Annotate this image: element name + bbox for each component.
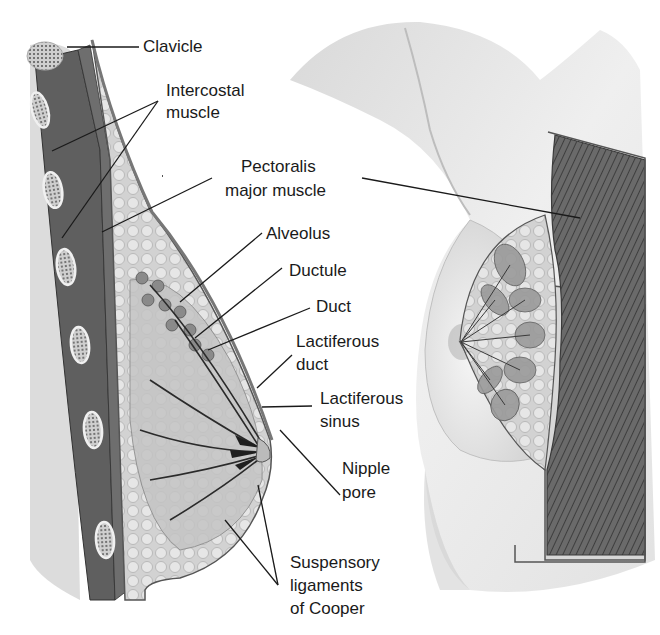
label-lactiferous-duct-line1: Lactiferous [296, 331, 379, 352]
label-nipple-pore-line2: pore [342, 482, 376, 503]
label-intercostal-line1: Intercostal [166, 80, 244, 101]
label-pectoralis-line1: Pectoralis [241, 156, 316, 177]
label-cooper-line3: of Cooper [290, 598, 365, 619]
label-nipple-pore-line1: Nipple [342, 458, 390, 479]
breast-anatomy-diagram: Clavicle Intercostal muscle Pectoralis m… [0, 0, 660, 635]
label-lactiferous-sinus-line1: Lactiferous [320, 388, 403, 409]
sagittal-section [27, 40, 272, 600]
label-cooper-line1: Suspensory [290, 552, 380, 573]
anatomy-illustration [0, 0, 660, 635]
label-clavicle: Clavicle [143, 36, 203, 57]
label-lactiferous-sinus-line2: sinus [320, 411, 360, 432]
label-duct: Duct [316, 296, 351, 317]
label-alveolus: Alveolus [266, 223, 330, 244]
label-ductule: Ductule [289, 260, 347, 281]
label-lactiferous-duct-line2: duct [296, 354, 328, 375]
label-intercostal-line2: muscle [166, 102, 220, 123]
label-cooper-line2: ligaments [290, 575, 363, 596]
label-pectoralis-line2: major muscle [225, 180, 326, 201]
